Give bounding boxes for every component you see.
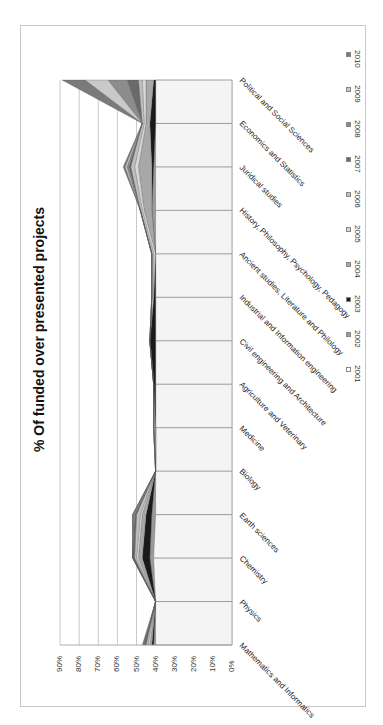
y-tick-label: 50% bbox=[132, 656, 141, 672]
legend-label-2005: 2005 bbox=[353, 225, 362, 243]
legend-swatch-2008 bbox=[346, 122, 351, 127]
legend-swatch-2009 bbox=[346, 87, 351, 92]
y-tick-label: 20% bbox=[189, 656, 198, 672]
legend-swatch-2001 bbox=[346, 367, 351, 372]
legend-swatch-2002 bbox=[346, 332, 351, 337]
y-tick-label: 60% bbox=[112, 656, 121, 672]
legend-swatch-2005 bbox=[346, 227, 351, 232]
y-tick-label: 80% bbox=[74, 656, 83, 672]
y-tick-label: 10% bbox=[208, 656, 217, 672]
legend-label-2006: 2006 bbox=[353, 190, 362, 208]
legend-label-2010: 2010 bbox=[353, 50, 362, 68]
y-tick-label: 70% bbox=[93, 656, 102, 672]
legend-swatch-2004 bbox=[346, 262, 351, 267]
y-tick-label: 0% bbox=[227, 660, 236, 672]
legend-label-2001: 2001 bbox=[353, 365, 362, 383]
legend-label-2009: 2009 bbox=[353, 85, 362, 103]
plot-area bbox=[0, 0, 383, 725]
legend-swatch-2010 bbox=[346, 52, 351, 57]
legend-swatch-2003 bbox=[346, 297, 351, 302]
legend-swatch-2006 bbox=[346, 192, 351, 197]
legend-label-2007: 2007 bbox=[353, 155, 362, 173]
legend-swatch-2007 bbox=[346, 157, 351, 162]
y-tick-label: 40% bbox=[151, 656, 160, 672]
legend-label-2003: 2003 bbox=[353, 295, 362, 313]
legend-label-2002: 2002 bbox=[353, 330, 362, 348]
series-area-2001 bbox=[154, 80, 232, 645]
legend-label-2004: 2004 bbox=[353, 260, 362, 278]
legend-label-2008: 2008 bbox=[353, 120, 362, 138]
y-tick-label: 90% bbox=[55, 656, 64, 672]
y-tick-label: 30% bbox=[170, 656, 179, 672]
